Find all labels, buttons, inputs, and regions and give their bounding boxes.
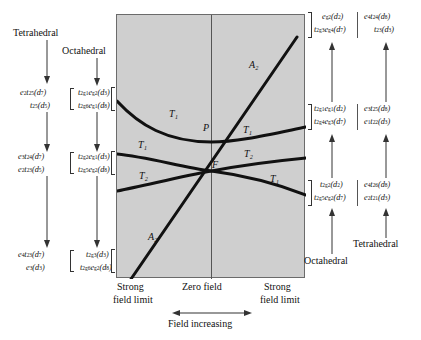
axis-right-limit-line2: field limit xyxy=(260,294,300,306)
arrow-octahedral-bottom-right xyxy=(327,208,337,254)
point-label-f: F xyxy=(212,159,218,171)
arrow-left-octa-1-2 xyxy=(92,112,102,152)
header-tetrahedral-bottom-right: Tetrahedral xyxy=(353,238,398,250)
header-tetrahedral-top-left: Tetrahedral xyxy=(13,27,58,39)
header-octahedral-top-left: Octahedral xyxy=(62,45,106,57)
term-left-octa-1b: t2g6eg1(d8) xyxy=(78,99,110,112)
bracket-left-tetra-3 xyxy=(70,250,74,272)
term-left-octa-1a: t2g1eg2(d3) xyxy=(78,86,110,99)
term-right-tetra-3a: e4t26(d8) xyxy=(364,178,390,191)
arrow-left-tetra-2-3 xyxy=(42,176,52,248)
arrow-right-tetra-2-1 xyxy=(381,42,391,102)
left-octa-group-2: t2g2eg1(d3) t2g5eg2(d8) xyxy=(78,150,110,176)
left-octa-group-1: t2g1eg2(d3) t2g6eg1(d8) xyxy=(78,86,110,112)
term-left-tetra-3b: e3(d3) xyxy=(26,261,45,274)
curve-label-a2-top-right: A₂ xyxy=(249,59,259,71)
bracket-right-octa-2 xyxy=(308,104,312,130)
field-increasing-arrow xyxy=(172,308,252,318)
arrow-octahedral-top-left xyxy=(92,58,102,86)
term-left-tetra-3a: e4t23(d7) xyxy=(18,248,45,261)
term-right-octa-3b: t2g5eg2(d7) xyxy=(314,191,346,204)
arrow-right-octa-3-2 xyxy=(327,134,337,178)
curve-label-a2-bottom-left: A₂ xyxy=(148,231,158,243)
arrow-right-octa-2-1 xyxy=(327,42,337,102)
term-right-octa-2a: t2g1eg1(d2) xyxy=(314,102,346,115)
curve-a2 xyxy=(131,37,297,279)
term-left-tetra-2b: e2t23(d5) xyxy=(18,163,44,176)
curve-label-t2-low-left: T₂ xyxy=(139,170,148,182)
term-left-octa-3a: t2g3(d3) xyxy=(86,248,112,261)
orgel-correlation-diagram: T₁ T₁ T₂ A₂ A₂ T₁ T₂ T₁ P F Tetrahedral … xyxy=(0,0,421,340)
curve-label-t2-mid-right: T₂ xyxy=(244,148,253,160)
term-right-tetra-1b: t23(d3) xyxy=(374,23,394,36)
bracket-left-octa-3 xyxy=(111,249,115,273)
term-right-octa-3a: t2g2(d2) xyxy=(320,178,346,191)
field-increasing-label: Field increasing xyxy=(168,318,232,330)
arrow-tetrahedral-top-left xyxy=(42,40,52,84)
term-left-octa-2a: t2g2eg1(d3) xyxy=(78,150,110,163)
right-tetra-group-3: e4t26(d8) e2t21(d3) xyxy=(364,178,390,204)
left-tetra-group-3: e4t23(d7) e3(d3) xyxy=(18,248,45,274)
right-octa-group-2: t2g1eg1(d2) t2g4eg3(d7) xyxy=(314,102,346,128)
term-right-octa-1b: t2g3eg4(d7) xyxy=(314,23,346,36)
arrow-left-octa-2-3 xyxy=(92,176,102,248)
curve-label-t1-top-left: T₁ xyxy=(169,108,178,120)
curve-label-t1-upper-right: T₁ xyxy=(243,124,252,136)
bracket-right-octa-1 xyxy=(308,12,312,38)
point-label-p: P xyxy=(203,122,209,134)
arrow-tetrahedral-bottom-right xyxy=(381,208,391,238)
term-right-octa-1a: eg2(d2) xyxy=(322,10,346,23)
term-right-tetra-2a: e3t25(d8) xyxy=(364,102,390,115)
axis-center-label: Zero field xyxy=(182,281,222,293)
curve-label-t1-mid-left: T₁ xyxy=(138,139,147,151)
right-octa-group-1: eg2(d2) t2g3eg4(d7) xyxy=(314,10,346,36)
left-octa-group-3: t2g3(d3) t2g6eg2(d8) xyxy=(80,248,112,274)
arrow-right-tetra-3-2 xyxy=(381,134,391,178)
term-right-tetra-2b: e1t22(d3) xyxy=(364,115,390,128)
term-left-tetra-1a: e2t25(d7) xyxy=(20,86,50,99)
rule-right-1 xyxy=(357,12,358,38)
right-tetra-group-1: e4t24(d8) t23(d3) xyxy=(364,10,394,36)
right-octa-group-3: t2g2(d2) t2g5eg2(d7) xyxy=(314,178,346,204)
rule-right-2 xyxy=(357,104,358,130)
header-octahedral-bottom-right: Octahedral xyxy=(304,255,348,267)
bracket-left-tetra-1 xyxy=(70,88,74,110)
term-right-octa-2b: t2g4eg3(d7) xyxy=(314,115,346,128)
arrow-left-tetra-1-2 xyxy=(42,112,52,152)
term-left-octa-3b: t2g6eg2(d8) xyxy=(80,261,112,274)
term-right-tetra-1a: e4t24(d8) xyxy=(364,10,394,23)
term-left-tetra-1b: t25(d5) xyxy=(30,99,50,112)
left-tetra-group-2: e3t24(d7) e2t23(d5) xyxy=(18,150,44,176)
term-left-tetra-2a: e3t24(d7) xyxy=(18,150,44,163)
rule-right-3 xyxy=(357,180,358,206)
term-right-tetra-3b: e2t21(d3) xyxy=(364,191,390,204)
left-tetra-group-1: e2t25(d7) t25(d5) xyxy=(20,86,50,112)
axis-left-limit-line1: Strong xyxy=(117,281,144,293)
bracket-left-octa-2 xyxy=(111,151,115,175)
curve-label-t1-low-right: T₁ xyxy=(270,173,279,185)
axis-left-limit-line2: field limit xyxy=(113,294,153,306)
bracket-left-tetra-2 xyxy=(70,152,74,174)
bracket-left-octa-1 xyxy=(111,87,115,111)
term-left-octa-2b: t2g5eg2(d8) xyxy=(78,163,110,176)
axis-right-limit-line1: Strong xyxy=(264,281,291,293)
bracket-right-octa-3 xyxy=(308,180,312,206)
right-tetra-group-2: e3t25(d8) e1t22(d3) xyxy=(364,102,390,128)
